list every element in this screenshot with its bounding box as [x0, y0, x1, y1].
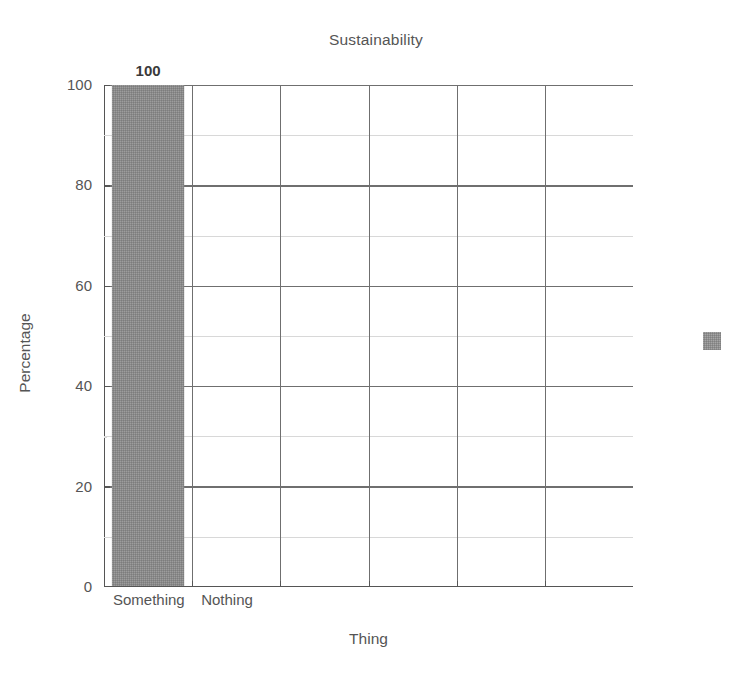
y-axis-tick-label: 40 — [28, 377, 92, 394]
bars-group — [112, 85, 184, 587]
y-axis-tick-label: 60 — [28, 277, 92, 294]
chart-title: Sustainability — [0, 31, 752, 49]
x-axis-title: Thing — [104, 630, 633, 648]
plot-svg — [104, 85, 633, 587]
plot-area — [104, 85, 633, 587]
chart-root: Sustainability Percentage Thing 02040608… — [0, 0, 752, 685]
x-axis-tick-label: Something — [113, 591, 185, 608]
bar[interactable] — [112, 85, 184, 587]
y-axis-tick-label: 20 — [28, 478, 92, 495]
legend-swatch-icon — [703, 332, 721, 350]
y-axis-tick-label: 0 — [28, 578, 92, 595]
y-axis-tick-label: 100 — [28, 76, 92, 93]
y-axis-title: Percentage — [16, 283, 34, 423]
bar-value-label: 100 — [112, 62, 184, 79]
x-axis-tick-label: Nothing — [201, 591, 253, 608]
y-axis-tick-label: 80 — [28, 176, 92, 193]
legend[interactable] — [703, 332, 721, 350]
